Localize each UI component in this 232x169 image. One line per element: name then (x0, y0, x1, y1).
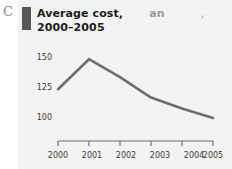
line-chart-plot (0, 0, 232, 169)
figure-panel-c: C Average cost,an, 2000–2005 150 125 100… (0, 0, 232, 169)
data-series-line (58, 59, 213, 118)
x-axis-line (58, 141, 213, 146)
